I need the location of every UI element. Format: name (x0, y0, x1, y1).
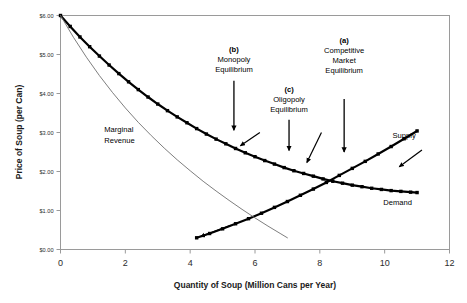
curve-label-marginal-revenue-line2: Revenue (104, 136, 134, 145)
data-point (415, 129, 418, 132)
annotation-layer: (b)MonopolyEquilibrium(c)OligopolyEquili… (215, 36, 364, 152)
data-point (176, 115, 179, 118)
series-line-supply (197, 131, 417, 238)
data-point (415, 191, 418, 194)
y-axis-tick-labels: $0.00$1.00$2.00$3.00$4.00$5.00$6.00 (40, 13, 54, 253)
x-tick-label: 6 (252, 258, 257, 268)
data-point (247, 217, 250, 220)
annotation-tag-a: (a) (340, 36, 350, 45)
data-point (260, 212, 263, 215)
x-tick-label: 8 (317, 258, 322, 268)
annotation-text-a-2: Equilibrium (325, 66, 363, 75)
y-tick-label: $1.00 (40, 208, 54, 214)
data-point (146, 95, 149, 98)
y-tick-label: $4.00 (40, 91, 54, 97)
x-tick-label: 2 (123, 258, 128, 268)
monopoly-pointer (240, 133, 259, 146)
data-point (389, 145, 392, 148)
data-point (69, 25, 72, 28)
data-point (234, 222, 237, 225)
data-point (364, 160, 367, 163)
y-axis-ticks (57, 16, 61, 250)
data-point (360, 185, 363, 188)
curve-labels: DemandSupplyMarginalRevenue (104, 125, 416, 207)
data-point (376, 152, 379, 155)
data-point (312, 174, 315, 177)
data-point (205, 132, 208, 135)
annotation-tag-b: (b) (229, 45, 239, 54)
data-point (299, 194, 302, 197)
data-point (224, 142, 227, 145)
chart-container: 024681012 $0.00$1.00$2.00$3.00$4.00$5.00… (0, 0, 467, 303)
data-point (312, 187, 315, 190)
data-point (370, 187, 373, 190)
data-point (195, 127, 198, 130)
data-point (341, 182, 344, 185)
data-point (351, 183, 354, 186)
data-point (214, 137, 217, 140)
x-tick-label: 10 (380, 258, 390, 268)
data-point (127, 80, 130, 83)
series-line-marginal-revenue (61, 16, 288, 238)
x-tick-label: 4 (188, 258, 193, 268)
annotation-text-b-1: Equilibrium (215, 65, 253, 74)
curve-label-marginal-revenue: Marginal (104, 125, 133, 134)
annotation-text-c-1: Equilibrium (270, 105, 308, 114)
x-axis-ticks (61, 250, 450, 254)
data-point (338, 174, 341, 177)
data-point (282, 166, 285, 169)
supply-curve-pointer (399, 150, 422, 167)
data-point (88, 45, 91, 48)
y-axis-title: Price of Soup (per Can) (14, 85, 24, 180)
x-tick-label: 12 (444, 258, 454, 268)
supply-pointer (201, 225, 231, 236)
data-point (286, 200, 289, 203)
annotation-text-c-0: Oligopoly (273, 95, 305, 104)
data-point (166, 109, 169, 112)
x-axis-tick-labels: 024681012 (58, 258, 455, 268)
data-point (234, 147, 237, 150)
curve-label-demand: Demand (383, 198, 412, 207)
data-point (321, 177, 324, 180)
data-point (78, 35, 81, 38)
data-point (117, 72, 120, 75)
data-point (302, 172, 305, 175)
data-point (263, 159, 266, 162)
x-tick-label: 0 (58, 258, 63, 268)
data-point (273, 206, 276, 209)
data-point (98, 54, 101, 57)
y-tick-label: $3.00 (40, 130, 54, 136)
y-tick-label: $6.00 (40, 13, 54, 19)
data-point (156, 102, 159, 105)
data-point (325, 181, 328, 184)
y-tick-label: $2.00 (40, 169, 54, 175)
data-point (351, 167, 354, 170)
data-point (107, 63, 110, 66)
series-line-demand (61, 16, 418, 193)
data-point (185, 121, 188, 124)
data-point (195, 236, 198, 239)
data-point (389, 189, 392, 192)
price-quantity-chart: 024681012 $0.00$1.00$2.00$3.00$4.00$5.00… (0, 0, 467, 303)
annotation-text-a-1: Market (333, 56, 357, 65)
data-point (399, 190, 402, 193)
annotation-tag-c: (c) (284, 85, 294, 94)
oligopoly-pointer (307, 133, 322, 163)
annotation-text-b-0: Monopoly (217, 55, 250, 64)
x-axis-title: Quantity of Soup (Million Cans per Year) (174, 280, 336, 290)
data-point (380, 188, 383, 191)
data-point (244, 151, 247, 154)
data-point (292, 169, 295, 172)
data-point (137, 88, 140, 91)
data-point (253, 155, 256, 158)
data-point (409, 190, 412, 193)
data-point (273, 162, 276, 165)
annotation-text-a-0: Competitive (324, 46, 364, 55)
y-tick-label: $0.00 (40, 247, 54, 253)
curve-label-supply: Supply (392, 131, 415, 140)
y-tick-label: $5.00 (40, 52, 54, 58)
